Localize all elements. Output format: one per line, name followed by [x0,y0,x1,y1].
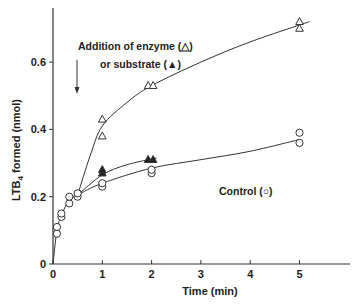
control-point [296,139,303,146]
chart-svg: 012345 00.20.40.6 Time (min) LTB4 formed… [0,0,357,304]
control-point [53,223,60,230]
arrow-down-icon [75,60,80,94]
y-tick-label: 0 [40,258,46,270]
x-tick-label: 5 [296,268,302,280]
x-ticks: 012345 [50,260,303,280]
control-point [99,180,106,187]
x-tick-label: 3 [198,268,204,280]
control-point [66,193,73,200]
control-point [58,210,65,217]
y-tick-label: 0.6 [31,56,46,68]
enzyme-point [99,115,107,122]
control-point [53,230,60,237]
line-chart: 012345 00.20.40.6 Time (min) LTB4 formed… [0,0,357,304]
y-tick-label: 0.2 [31,191,46,203]
control-point [74,190,81,197]
fit-curve [78,158,157,195]
fit-curve [53,139,300,264]
control-point [66,200,73,207]
substrate-point [99,166,107,173]
y-tick-label: 0.4 [31,123,47,135]
fit-curves [53,22,309,264]
control-point [296,129,303,136]
x-tick-label: 4 [247,268,254,280]
annotation-addition-line2: or substrate (▲) [100,58,181,70]
enzyme-point [296,18,304,25]
x-tick-label: 1 [99,268,105,280]
y-ticks: 00.20.40.6 [31,56,53,270]
x-axis-label: Time (min) [182,285,238,297]
annotation-control: Control (○) [219,185,273,197]
x-tick-label: 2 [149,268,155,280]
y-axis-label: LTB4 formed (nmol) [10,99,25,201]
enzyme-point [99,132,107,139]
enzyme-point [296,24,304,31]
control-point [148,166,155,173]
x-tick-label: 0 [50,268,56,280]
annotation-addition-line1: Addition of enzyme (△) [78,40,193,52]
